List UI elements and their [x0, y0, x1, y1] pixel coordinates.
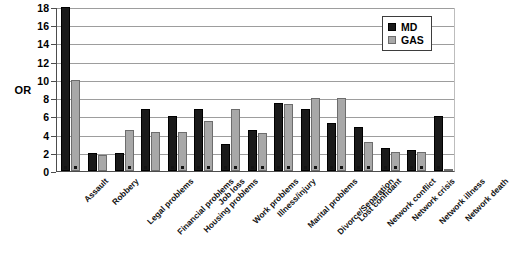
bar-group: [301, 8, 320, 171]
significance-marker-gas: [181, 166, 184, 169]
x-axis-label-housing-problems: Housing problems: [201, 176, 260, 235]
y-axis-tick-label: 0: [23, 167, 49, 178]
significance-marker-md: [410, 166, 413, 169]
legend-item-gas[interactable]: GAS: [388, 33, 424, 46]
legend-swatch-gas-icon: [388, 36, 396, 44]
significance-marker-gas: [287, 166, 290, 169]
bar-gas-legal-problems[interactable]: [125, 130, 134, 171]
bar-md-housing-problems[interactable]: [168, 116, 177, 171]
x-axis-label-financial-problems: Financial problems: [175, 176, 236, 237]
y-axis-tick-label: 4: [23, 131, 49, 142]
x-axis-label-legal-problems: Legal problems: [144, 176, 194, 226]
bar-md-financial-problems[interactable]: [141, 109, 150, 171]
x-axis-label-network-illness: Network illness: [437, 176, 487, 226]
y-axis-tick-label: 12: [23, 58, 49, 69]
legend-item-md[interactable]: MD: [388, 20, 424, 33]
bar-group: [168, 8, 187, 171]
legend-label-md: MD: [401, 21, 417, 33]
significance-marker-md: [251, 166, 254, 169]
y-axis-tick-label: 10: [23, 76, 49, 87]
bar-md-network-conflict[interactable]: [354, 127, 363, 171]
bar-md-illness-injury[interactable]: [248, 130, 257, 171]
legend-swatch-md-icon: [388, 23, 396, 31]
x-axis-label-work-problems: Work problems: [251, 176, 301, 226]
significance-marker-gas: [420, 166, 423, 169]
bar-group: [434, 8, 453, 171]
significance-marker-md: [171, 166, 174, 169]
significance-marker-gas: [234, 166, 237, 169]
bar-gas-assault[interactable]: [71, 80, 80, 171]
significance-marker-gas: [394, 166, 397, 169]
bar-gas-network-death[interactable]: [444, 169, 453, 171]
bar-md-legal-problems[interactable]: [115, 153, 124, 171]
significance-marker-md: [64, 166, 67, 169]
significance-marker-md: [330, 166, 333, 169]
bar-group: [354, 8, 373, 171]
y-axis-tick-label: 18: [23, 3, 49, 14]
bar-md-assault[interactable]: [61, 7, 70, 171]
significance-marker-md: [224, 166, 227, 169]
bar-gas-divorce-separation[interactable]: [311, 98, 320, 171]
bar-gas-job-loss[interactable]: [204, 121, 213, 171]
significance-marker-md: [357, 166, 360, 169]
x-axis-label-illness-injury: Illness/injury: [274, 176, 317, 219]
bar-md-job-loss[interactable]: [194, 109, 203, 171]
legend: MD GAS: [382, 16, 432, 51]
bar-md-robbery[interactable]: [88, 153, 97, 171]
significance-marker-md: [277, 166, 280, 169]
bar-gas-marital-problems[interactable]: [284, 104, 293, 171]
bar-group: [88, 8, 107, 171]
bar-group: [141, 8, 160, 171]
significance-marker-gas: [207, 166, 210, 169]
bar-md-marital-problems[interactable]: [274, 103, 283, 171]
significance-marker-md: [384, 166, 387, 169]
x-axis-label-divorce-separation: Divorce/Separation: [335, 176, 396, 237]
y-axis-tick-label: 6: [23, 112, 49, 123]
y-axis-tick-label: 2: [23, 149, 49, 160]
bar-gas-financial-problems[interactable]: [151, 132, 160, 171]
significance-marker-gas: [314, 166, 317, 169]
x-axis-label-marital-problems: Marital problems: [306, 176, 360, 230]
bar-md-lost-confidant[interactable]: [327, 123, 336, 171]
bar-group: [327, 8, 346, 171]
x-axis-label-lost-confidant: Lost confidant: [356, 176, 403, 223]
x-axis-label-network-crisis: Network crisis: [409, 176, 456, 223]
y-axis-tick-label: 8: [23, 94, 49, 105]
significance-marker-md: [437, 166, 440, 169]
bar-group: [248, 8, 267, 171]
bar-gas-lost-confidant[interactable]: [337, 98, 346, 171]
y-axis-tick-label: 16: [23, 21, 49, 32]
significance-marker-md: [304, 166, 307, 169]
significance-marker-gas: [128, 166, 131, 169]
bar-md-network-death[interactable]: [434, 116, 443, 171]
bar-group: [115, 8, 134, 171]
significance-marker-gas: [367, 166, 370, 169]
bar-group: [221, 8, 240, 171]
x-axis-label-network-conflict: Network conflict: [385, 176, 438, 229]
significance-marker-gas: [261, 166, 264, 169]
bar-gas-robbery[interactable]: [98, 155, 107, 171]
x-axis-label-job-loss: Job loss: [216, 176, 247, 207]
y-axis-tick-label: 14: [23, 39, 49, 50]
bar-group: [274, 8, 293, 171]
significance-marker-gas: [74, 166, 77, 169]
bar-group: [194, 8, 213, 171]
x-axis-label-assault: Assault: [82, 176, 110, 204]
x-axis-label-network-death: Network death: [462, 176, 509, 223]
legend-label-gas: GAS: [401, 34, 424, 46]
y-axis-tick-mark: [51, 172, 56, 173]
x-axis-label-robbery: Robbery: [110, 176, 141, 207]
significance-marker-md: [197, 166, 200, 169]
bar-md-divorce-separation[interactable]: [301, 109, 310, 171]
bar-gas-work-problems[interactable]: [231, 109, 240, 171]
bar-group: [61, 8, 80, 171]
significance-marker-gas: [340, 166, 343, 169]
significance-marker-md: [144, 166, 147, 169]
